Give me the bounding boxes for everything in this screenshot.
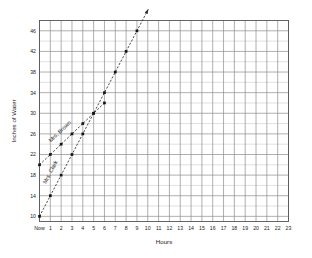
x-tick-label: 2 bbox=[60, 225, 63, 231]
x-tick-label: 10 bbox=[145, 225, 151, 231]
x-tick-label: 7 bbox=[114, 225, 117, 231]
x-tick-label: 12 bbox=[167, 225, 173, 231]
x-tick-label: Now bbox=[34, 225, 45, 231]
x-tick-label: 17 bbox=[221, 225, 227, 231]
x-tick-label: 3 bbox=[71, 225, 74, 231]
data-point-marker bbox=[136, 29, 139, 32]
water-level-line-chart: 10141822263034384246 Now1234567891011121… bbox=[0, 0, 312, 258]
x-tick-label: 5 bbox=[92, 225, 95, 231]
x-tick-label: 16 bbox=[210, 225, 216, 231]
data-point-marker bbox=[81, 133, 84, 136]
x-tick-label: 23 bbox=[286, 225, 292, 231]
data-point-marker bbox=[60, 174, 63, 177]
x-tick-label: 6 bbox=[103, 225, 106, 231]
x-tick-label: 15 bbox=[199, 225, 205, 231]
y-tick-label: 10 bbox=[30, 213, 36, 219]
data-point-marker bbox=[38, 215, 41, 218]
data-point-marker bbox=[103, 91, 106, 94]
y-tick-label: 30 bbox=[30, 110, 36, 116]
data-point-marker bbox=[92, 112, 95, 115]
y-tick-label: 46 bbox=[30, 28, 36, 34]
y-tick-label: 22 bbox=[30, 151, 36, 157]
data-point-marker bbox=[125, 50, 128, 53]
chart-background bbox=[0, 0, 312, 258]
y-tick-label: 34 bbox=[30, 90, 36, 96]
data-point-marker bbox=[114, 71, 117, 74]
data-point-marker bbox=[38, 163, 41, 166]
x-tick-label: 4 bbox=[81, 225, 84, 231]
data-point-marker bbox=[60, 143, 63, 146]
x-tick-label: 21 bbox=[264, 225, 270, 231]
y-tick-label: 26 bbox=[30, 131, 36, 137]
data-point-marker bbox=[103, 102, 106, 105]
data-point-marker bbox=[71, 153, 74, 156]
x-axis-title: Hours bbox=[156, 238, 173, 245]
y-tick-label: 42 bbox=[30, 48, 36, 54]
x-tick-label: 11 bbox=[156, 225, 161, 231]
x-tick-label: 13 bbox=[177, 225, 183, 231]
x-tick-label: 1 bbox=[49, 225, 52, 231]
data-point-marker bbox=[49, 194, 52, 197]
x-tick-label: 22 bbox=[275, 225, 281, 231]
y-tick-label: 14 bbox=[30, 193, 36, 199]
x-tick-label: 8 bbox=[125, 225, 128, 231]
y-tick-label: 38 bbox=[30, 69, 36, 75]
x-tick-label: 20 bbox=[253, 225, 259, 231]
data-point-marker bbox=[81, 122, 84, 125]
chart-canvas: 10141822263034384246 Now1234567891011121… bbox=[0, 0, 312, 258]
x-tick-label: 18 bbox=[231, 225, 237, 231]
data-point-marker bbox=[49, 153, 52, 156]
x-tick-label: 19 bbox=[242, 225, 248, 231]
x-tick-label: 14 bbox=[188, 225, 194, 231]
y-tick-label: 18 bbox=[30, 172, 36, 178]
y-axis-title: Inches of Water bbox=[10, 99, 17, 142]
x-tick-label: 9 bbox=[135, 225, 138, 231]
data-point-marker bbox=[71, 133, 74, 136]
